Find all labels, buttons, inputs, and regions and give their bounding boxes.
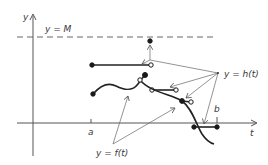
h-label: y = h(t) (223, 69, 259, 79)
bound-label: y = M (44, 24, 72, 34)
function-f-graph (90, 39, 219, 144)
t-axis-label: t (250, 128, 254, 138)
isolated-point (148, 39, 152, 43)
tick-b-label: b (214, 104, 220, 114)
t-axis (17, 120, 257, 126)
y-axis (30, 14, 36, 156)
y-axis-label: y (22, 12, 29, 22)
tick-a-label: a (88, 127, 94, 137)
bounded-step-function-diagram: y t y = M a b (0, 0, 268, 165)
h-pointer-lines (142, 45, 219, 124)
f-pointer-lines (113, 96, 175, 144)
f-label: y = f(t) (95, 148, 128, 158)
